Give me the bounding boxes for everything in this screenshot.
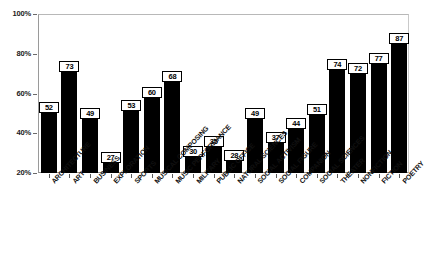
x-tick-mark (234, 174, 235, 178)
x-tick-mark (276, 174, 277, 178)
x-axis-category-labels: ARCHITECTUREARTBUSINESSEXPLORATIONSPORTS… (0, 0, 425, 257)
x-tick-mark (296, 174, 297, 178)
bar-chart: 20%40%60%80%100% 52734927536068303528493… (0, 0, 425, 257)
x-tick-mark (214, 174, 215, 178)
x-category-label: EXPLORATION (112, 144, 151, 185)
x-tick-mark (90, 174, 91, 178)
x-tick-mark (337, 174, 338, 178)
x-category-label: POETRY (401, 160, 425, 185)
x-tick-mark (152, 174, 153, 178)
x-tick-mark (399, 174, 400, 178)
x-tick-mark (69, 174, 70, 178)
x-category-label: ART (71, 170, 86, 185)
x-tick-mark (317, 174, 318, 178)
x-tick-mark (131, 174, 132, 178)
x-tick-mark (172, 174, 173, 178)
x-tick-mark (49, 174, 50, 178)
x-tick-mark (193, 174, 194, 178)
x-tick-mark (255, 174, 256, 178)
x-tick-mark (358, 174, 359, 178)
x-tick-mark (111, 174, 112, 178)
x-tick-mark (379, 174, 380, 178)
